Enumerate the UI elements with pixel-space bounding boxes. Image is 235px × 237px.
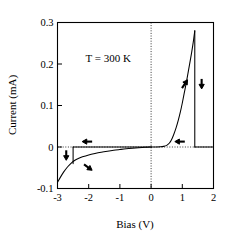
arrow-head bbox=[82, 139, 87, 144]
temperature-annotation: T = 300 K bbox=[86, 52, 131, 64]
arrow-positive-rising bbox=[182, 80, 188, 88]
y-tick-label: 0.1 bbox=[40, 100, 53, 111]
x-tick-label: -1 bbox=[116, 192, 125, 203]
arrow-negative-zero-branch bbox=[82, 139, 92, 144]
y-axis-title: Current (mA) bbox=[6, 75, 19, 136]
x-axis-title: Bias (V) bbox=[116, 218, 154, 231]
arrow-positive-return bbox=[175, 139, 185, 144]
arrow-head bbox=[199, 84, 204, 89]
chart-figure: -3-2-1012 -0.100.10.20.3 T = 300 K Bias … bbox=[0, 0, 235, 237]
reference-lines bbox=[58, 23, 214, 189]
y-axis-tick-labels: -0.100.10.20.3 bbox=[37, 17, 54, 194]
y-axis-ticks bbox=[58, 23, 63, 189]
x-tick-label: -3 bbox=[53, 192, 62, 203]
x-tick-label: 0 bbox=[148, 192, 153, 203]
x-tick-label: -2 bbox=[84, 192, 93, 203]
y-tick-label: 0.2 bbox=[40, 59, 53, 70]
arrow-head bbox=[175, 139, 180, 144]
iv-curve-chart: -3-2-1012 -0.100.10.20.3 T = 300 K Bias … bbox=[0, 0, 235, 237]
arrow-head bbox=[64, 156, 69, 161]
x-axis-tick-labels: -3-2-1012 bbox=[53, 192, 216, 203]
x-axis-ticks bbox=[58, 184, 214, 189]
arrow-positive-drop bbox=[199, 79, 204, 89]
y-tick-label: 0.3 bbox=[40, 17, 53, 28]
curve-reverse-sweep-negative bbox=[58, 147, 152, 182]
x-tick-label: 1 bbox=[180, 192, 185, 203]
data-curves bbox=[58, 31, 214, 182]
curve-forward-sweep-positive bbox=[151, 31, 195, 147]
plot-frame bbox=[58, 23, 214, 189]
arrow-negative-rising bbox=[84, 164, 92, 170]
x-tick-label: 2 bbox=[211, 192, 216, 203]
y-tick-label: 0 bbox=[48, 142, 53, 153]
arrow-negative-drop bbox=[64, 150, 69, 160]
y-tick-label: -0.1 bbox=[37, 183, 54, 194]
